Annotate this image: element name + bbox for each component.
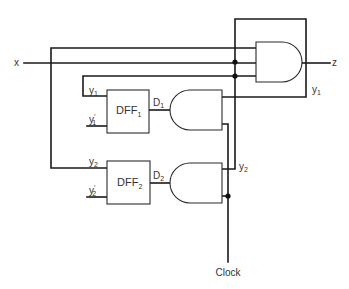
- d2-label: D2: [153, 170, 164, 182]
- clock-label: Clock: [215, 267, 241, 278]
- y1-label-right: y1: [312, 84, 321, 96]
- z-output-label: z: [332, 57, 337, 68]
- wire-outer-loop: [51, 48, 256, 168]
- wire-clock: [222, 124, 228, 262]
- and-gate-d2: [170, 163, 222, 203]
- junction-dot: [232, 73, 237, 78]
- and-gate-d1: [170, 90, 222, 130]
- y2-prime-label: y′2: [89, 184, 96, 197]
- junction-dot: [232, 59, 237, 64]
- circuit-diagram: DFF1 DFF2 x z y1 y′1 y2 y′2 D1 D2 y1 y2 …: [0, 0, 349, 289]
- y1-label-dff1: y1: [89, 85, 98, 97]
- y1-prime-label: y′1: [89, 113, 96, 126]
- and-gate-output: [256, 42, 302, 82]
- y2-label-right: y2: [239, 161, 248, 173]
- y2-label-dff2: y2: [89, 156, 98, 168]
- junction-dot: [225, 193, 230, 198]
- x-input-label: x: [14, 57, 19, 68]
- d1-label: D1: [153, 97, 164, 109]
